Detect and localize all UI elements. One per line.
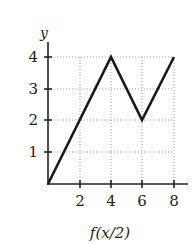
- y-tick-label: 2: [28, 111, 38, 129]
- y-axis-label: y: [39, 25, 49, 41]
- grid: [48, 57, 174, 184]
- x-tick-label: 4: [106, 192, 116, 210]
- axes: [44, 42, 188, 188]
- chart-caption: f(x/2): [89, 224, 130, 242]
- chart: y 1 2 3 4 2 4 6 8 f(x/2): [0, 0, 194, 244]
- x-tick-label: 6: [137, 192, 147, 210]
- y-tick-label: 3: [28, 80, 38, 98]
- y-tick-label: 4: [28, 48, 38, 66]
- x-tick-label: 8: [169, 192, 179, 210]
- y-tick-label: 1: [28, 143, 38, 161]
- x-tick-label: 2: [75, 192, 85, 210]
